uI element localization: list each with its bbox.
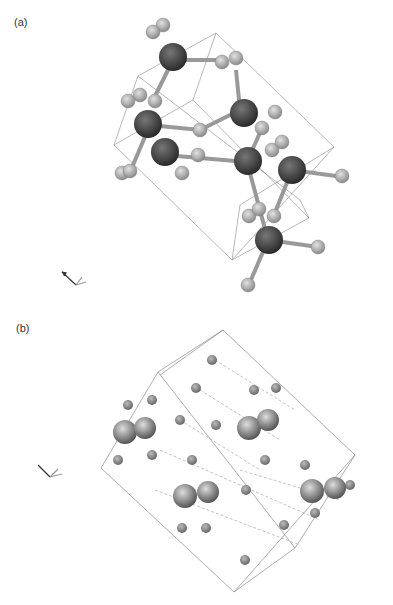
axis-indicator-b [38,465,62,477]
panel-b-structure [0,0,393,605]
